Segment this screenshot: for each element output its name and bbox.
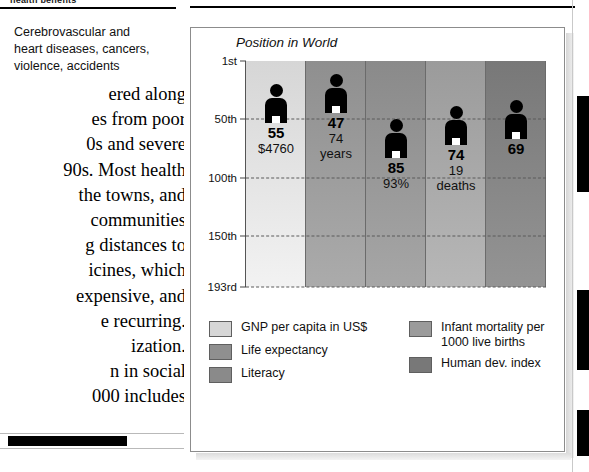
article-body-text: ered along es from poor 0s and severe 90… — [0, 82, 184, 410]
body-line-2: 0s and severe — [0, 132, 184, 157]
person-head-icon — [330, 74, 343, 87]
chart-column[interactable] — [486, 61, 546, 287]
footer-rule-top — [0, 433, 184, 434]
person-marker-icon — [325, 74, 347, 113]
bar-detail-label: 93% — [383, 176, 409, 191]
body-line-10: ization. — [0, 334, 184, 359]
page-edge-line — [572, 0, 573, 472]
legend-item[interactable]: Infant mortality per 1000 live births — [409, 320, 554, 350]
plot-area: 1st50th100th150th193rd55$47604774years85… — [246, 61, 546, 287]
person-body-icon — [325, 88, 347, 113]
footer-black-bar — [8, 436, 127, 446]
person-marker-icon — [445, 106, 467, 145]
legend-swatch-icon — [209, 367, 232, 383]
legend-column-left: GNP per capita in US$ Life expectancy Li… — [209, 320, 367, 389]
legend-label: Life expectancy — [241, 343, 328, 358]
bar-detail-label: 19deaths — [436, 163, 475, 193]
body-line-12: 000 includes — [0, 384, 184, 409]
bar-value-label: 69 — [508, 140, 525, 157]
article-header-text: health benefits — [10, 0, 77, 5]
axis-tick-label: 100th — [208, 172, 246, 184]
legend-item[interactable]: GNP per capita in US$ — [209, 320, 367, 337]
person-head-icon — [270, 84, 283, 97]
person-head-icon — [510, 100, 523, 113]
body-line-4: the towns, and — [0, 183, 184, 208]
body-line-1: es from poor — [0, 107, 184, 132]
bar-value-label: 74 — [448, 146, 465, 163]
legend-label: Infant mortality per 1000 live births — [441, 320, 554, 350]
bar-detail-label: 74years — [320, 131, 352, 161]
person-body-icon — [445, 120, 467, 145]
bar-value-label: 47 — [328, 114, 345, 131]
bar-detail-label: $4760 — [258, 141, 294, 156]
axis-tick-label: 150th — [208, 230, 246, 242]
panel-shadow-bottom — [196, 453, 571, 460]
body-line-3: 90s. Most health — [0, 158, 184, 183]
header-rule — [0, 7, 176, 9]
legend-label: GNP per capita in US$ — [241, 320, 367, 335]
body-line-7: icines, which — [0, 258, 184, 283]
person-marker-icon — [505, 100, 527, 139]
legend-item[interactable]: Human dev. index — [409, 356, 554, 373]
axis-tick-label: 1st — [222, 55, 246, 67]
legend-swatch-icon — [409, 357, 432, 373]
person-body-icon — [265, 98, 287, 123]
page-root: health benefits Cerebrovascular and hear… — [0, 0, 589, 472]
bar-value-label: 55 — [268, 124, 285, 141]
gridline — [246, 236, 546, 237]
legend-swatch-icon — [409, 321, 432, 337]
legend-label: Human dev. index — [441, 356, 541, 371]
legend-label: Literacy — [241, 366, 285, 381]
person-body-icon — [505, 114, 527, 139]
caption-line-1: heart diseases, cancers, — [14, 41, 184, 58]
body-line-11: n in social — [0, 359, 184, 384]
edge-mark-mid — [577, 290, 589, 370]
legend-item[interactable]: Literacy — [209, 366, 367, 383]
legend-swatch-icon — [209, 344, 232, 360]
legend-item[interactable]: Life expectancy — [209, 343, 367, 360]
top-divider-rule — [190, 6, 589, 8]
bar-value-label: 85 — [388, 159, 405, 176]
person-body-icon — [385, 133, 407, 158]
gridline — [246, 287, 546, 288]
axis-tick-label: 193rd — [208, 281, 246, 293]
chart-title: Position in World — [236, 35, 337, 50]
body-line-8: expensive, and — [0, 284, 184, 309]
person-head-icon — [390, 119, 403, 132]
caption-line-2: violence, accidents — [14, 58, 184, 75]
chart-panel: Position in World 1st50th100th150th193rd… — [190, 27, 565, 452]
figure-caption: Cerebrovascular and heart diseases, canc… — [14, 24, 184, 75]
person-marker-icon — [385, 119, 407, 158]
edge-mark-upper — [577, 96, 589, 192]
person-marker-icon — [265, 84, 287, 123]
body-line-9: e recurring. — [0, 309, 184, 334]
legend-column-right: Infant mortality per 1000 live births Hu… — [409, 320, 554, 379]
article-column: health benefits Cerebrovascular and hear… — [0, 0, 184, 472]
edge-mark-lower — [577, 410, 589, 456]
legend-swatch-icon — [209, 321, 232, 337]
page-edge-strip — [575, 0, 589, 472]
body-line-5: communities — [0, 208, 184, 233]
person-head-icon — [450, 106, 463, 119]
axis-tick-label: 50th — [215, 113, 246, 125]
footer-rule-bottom — [0, 448, 184, 449]
caption-line-0: Cerebrovascular and — [14, 24, 184, 41]
body-line-0: ered along — [0, 82, 184, 107]
body-line-6: g distances to — [0, 233, 184, 258]
